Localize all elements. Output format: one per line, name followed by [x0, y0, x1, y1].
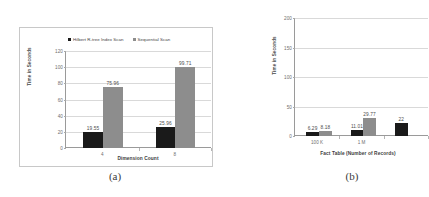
chart-a-x-axis-title: Dimension Count	[65, 156, 211, 161]
chart-b-bar-label-hilbert-100k: 6.29	[308, 126, 318, 131]
chart-b-ytick-200: 200	[284, 16, 292, 21]
chart-a-bar-sequential-4	[103, 87, 123, 148]
chart-a-bar-label-hilbert-8: 25.96	[159, 121, 172, 126]
chart-a-ytick-0: 0	[60, 146, 63, 151]
chart-b-panel: Time in Seconds 200 150 100 50 0 6.29 8.…	[254, 6, 426, 166]
chart-b-x-axis-title: Fact Table (Number of Records)	[288, 151, 428, 156]
chart-a-bar-hilbert-8	[156, 127, 176, 148]
legend-swatch-icon-sequential	[133, 38, 136, 41]
subfigure-caption-a: (a)	[85, 170, 145, 182]
chart-a-ytick-80: 80	[58, 81, 63, 86]
chart-a-bar-label-hilbert-4: 19.55	[87, 126, 100, 131]
legend-label-sequential: Sequential Scan	[138, 37, 171, 42]
chart-b-bar-label-sequential-100k: 8.18	[320, 125, 330, 130]
chart-b-bar-label-sequential-1m: 29.77	[363, 112, 376, 117]
chart-a-bar-hilbert-4	[83, 132, 103, 148]
chart-b-xtick-100k: 100 K	[311, 140, 323, 145]
chart-b-ytick-0: 0	[289, 134, 292, 139]
chart-a-ytick-20: 20	[58, 129, 63, 134]
chart-b-ytick-100: 100	[284, 75, 292, 80]
subfigure-caption-b: (b)	[322, 170, 382, 182]
chart-b-ytick-150: 150	[284, 45, 292, 50]
chart-a-legend: Hilbert R-tree Index Scan Sequential Sca…	[68, 37, 179, 42]
legend-entry-sequential: Sequential Scan	[133, 37, 171, 42]
chart-a-ytick-100: 100	[55, 65, 63, 70]
chart-a-bar-label-sequential-8: 99.71	[179, 61, 192, 66]
chart-a-plot-area: 120 100 80 60 40 20 0 19.55 75.96	[65, 51, 211, 148]
chart-a-y-axis-title: Time in Seconds	[27, 41, 32, 93]
chart-b-xtick-1m: 1 M	[358, 140, 366, 145]
chart-b-bar-hilbert-1m	[351, 130, 364, 136]
chart-b-bar-hilbert-100k	[306, 132, 319, 136]
chart-b-bar-hilbert-clipped	[395, 123, 408, 136]
chart-b-bar-label-hilbert-1m: 11.01	[351, 124, 363, 129]
chart-a-bar-sequential-8	[175, 67, 195, 148]
legend-entry-hilbert: Hilbert R-tree Index Scan	[68, 37, 124, 42]
chart-b-plot-area: 200 150 100 50 0 6.29 8.18 11.01 29.77	[294, 18, 428, 136]
chart-b-bar-label-hilbert-clipped: 22	[398, 117, 404, 122]
legend-label-hilbert: Hilbert R-tree Index Scan	[73, 37, 124, 42]
chart-b-bar-sequential-100k	[319, 131, 332, 136]
legend-swatch-icon-hilbert	[68, 38, 71, 41]
chart-b-y-axis-title: Time in Seconds	[272, 30, 277, 82]
chart-a-panel: Hilbert R-tree Index Scan Sequential Sca…	[19, 27, 213, 167]
chart-b-bar-sequential-1m	[363, 118, 376, 136]
chart-a-ytick-120: 120	[55, 49, 63, 54]
chart-a-ytick-40: 40	[58, 113, 63, 118]
chart-b-ytick-50: 50	[287, 104, 292, 109]
chart-a-ytick-60: 60	[58, 97, 63, 102]
chart-a-bar-label-sequential-4: 75.96	[106, 81, 119, 86]
